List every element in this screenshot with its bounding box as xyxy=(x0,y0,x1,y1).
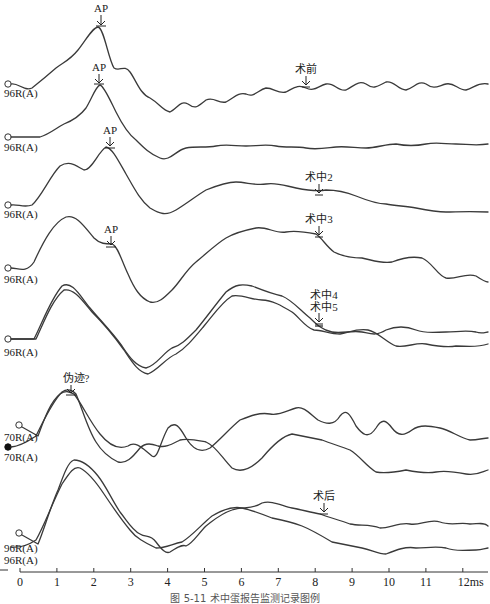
x-tick-label: 9 xyxy=(349,575,355,589)
ap-marker-label: AP xyxy=(103,124,117,136)
x-tick-label: 1 xyxy=(54,575,60,589)
channel-label: 96R(A) xyxy=(4,87,38,100)
down-arrow-icon xyxy=(315,184,323,195)
down-arrow-icon xyxy=(66,385,76,395)
artifact-marker-label: 伪迹? xyxy=(63,372,90,384)
trace-intraop-4-5: 96R(A) 术中4 术中5 xyxy=(4,285,488,374)
channel-label: 70R(A) xyxy=(4,451,38,464)
down-arrow-icon xyxy=(315,313,323,324)
preop-marker-label: 术前 xyxy=(295,62,317,75)
waveform-chart: 96R(A) AP 术前 96R(A) AP 96R(A) AP 术中2 96R… xyxy=(0,0,490,604)
electrode-open-icon xyxy=(5,336,11,342)
ap-marker-label: AP xyxy=(92,61,106,73)
down-arrow-icon xyxy=(94,74,104,84)
trace-intraop-1: 96R(A) AP xyxy=(4,61,488,159)
x-tick-label: 5 xyxy=(202,575,208,589)
intraop3-marker-label: 术中3 xyxy=(305,213,333,225)
electrode-open-icon xyxy=(5,265,11,271)
down-arrow-icon xyxy=(302,76,310,87)
trace-70r-pair: 70R(A) 70R(A) 伪迹? xyxy=(4,372,488,475)
intraop4-marker-label: 术中4 xyxy=(310,289,338,301)
down-arrow-icon xyxy=(96,15,106,26)
ap-marker-label: AP xyxy=(104,223,118,235)
x-tick-label: 4 xyxy=(165,575,171,589)
electrode-filled-icon xyxy=(5,444,11,450)
channel-label: 96R(A) xyxy=(4,346,38,359)
trace-intraop-3: 96R(A) AP 术中3 xyxy=(4,213,488,302)
x-tick-label: 12ms xyxy=(458,575,484,589)
down-arrow-icon xyxy=(320,503,328,514)
x-tick-label: 2 xyxy=(91,575,97,589)
x-tick-label: 7 xyxy=(275,575,281,589)
x-tick-label: 6 xyxy=(238,575,244,589)
intraop2-marker-label: 术中2 xyxy=(305,171,333,183)
channel-label: 96R(A) xyxy=(4,208,38,221)
intraop5-marker-label: 术中5 xyxy=(310,301,338,313)
x-tick-label: 8 xyxy=(312,575,318,589)
x-tick-label: 10 xyxy=(383,575,395,589)
down-arrow-icon xyxy=(315,226,323,237)
x-tick-label: 3 xyxy=(128,575,134,589)
x-axis: 0123456789101112ms xyxy=(17,568,488,589)
channel-label: 96R(A) xyxy=(4,273,38,286)
channel-label: 70R(A) xyxy=(4,431,38,444)
trace-preop: 96R(A) AP 术前 xyxy=(4,2,488,112)
trace-intraop-2: 96R(A) AP 术中2 xyxy=(4,124,488,221)
trace-postop-pair: 96R(A) 96R(A) 术后 xyxy=(4,460,488,567)
channel-label: 96R(A) xyxy=(4,554,38,567)
channel-label: 96R(A) xyxy=(4,141,38,154)
ap-marker-label: AP xyxy=(94,2,108,14)
x-tick-label: 11 xyxy=(420,575,432,589)
figure-caption: 图 5-11 术中蛋报告监测记录图例 xyxy=(170,592,319,604)
electrode-open-icon xyxy=(16,530,22,536)
x-tick-label: 0 xyxy=(17,575,23,589)
electrode-open-icon xyxy=(16,422,22,428)
postop-marker-label: 术后 xyxy=(313,490,335,502)
electrode-open-icon xyxy=(5,134,11,140)
down-arrow-icon xyxy=(105,137,115,148)
